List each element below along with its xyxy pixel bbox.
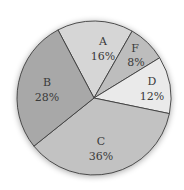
slice-value-f: 8%	[127, 56, 144, 69]
slice-label-d: D	[148, 75, 157, 88]
slice-value-a: 16%	[91, 50, 115, 63]
slice-label-f: F	[131, 42, 139, 55]
pie-chart: A 16% F 8% D 12% C 36% B 28%	[0, 0, 184, 190]
slice-value-c: 36%	[89, 150, 113, 163]
slice-label-c: C	[97, 135, 105, 148]
slice-value-b: 28%	[35, 91, 59, 104]
slice-label-b: B	[43, 76, 51, 89]
slice-value-d: 12%	[140, 90, 164, 103]
slice-label-a: A	[98, 35, 108, 48]
